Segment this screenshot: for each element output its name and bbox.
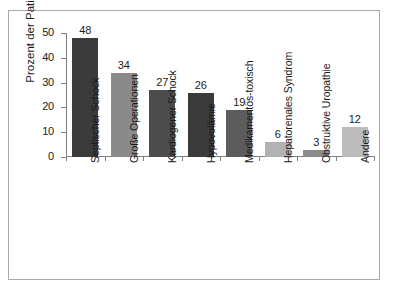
bar-value-label: 3 bbox=[313, 136, 319, 148]
x-category-label: Kardiogener Schock bbox=[166, 70, 178, 163]
x-tick-mark bbox=[297, 157, 298, 161]
x-category-label: Medikamentös-toxisch bbox=[243, 61, 255, 163]
x-tick-mark bbox=[105, 157, 106, 161]
x-category-label: Hepatorenales Syndrom bbox=[282, 52, 294, 163]
x-tick-mark bbox=[336, 157, 337, 161]
x-tick-mark bbox=[143, 157, 144, 161]
x-tick-mark bbox=[66, 157, 67, 161]
x-category-label: Obstruktive Uropathie bbox=[320, 64, 332, 163]
y-tick-label: 40 bbox=[14, 51, 54, 63]
x-category-label: Hypovolämie bbox=[205, 103, 217, 163]
y-tick-label: 50 bbox=[14, 26, 54, 38]
bar-value-label: 34 bbox=[118, 59, 130, 71]
bar-value-label: 48 bbox=[79, 24, 91, 36]
x-tick-mark bbox=[182, 157, 183, 161]
bar-value-label: 12 bbox=[349, 113, 361, 125]
y-tick-label: 20 bbox=[14, 100, 54, 112]
figure-container: Prozent der Patienten 01020304050 483427… bbox=[0, 0, 393, 296]
x-tick-mark bbox=[259, 157, 260, 161]
x-tick-mark bbox=[374, 157, 375, 161]
x-category-label: Große Operationen bbox=[128, 74, 140, 163]
bar-value-label: 6 bbox=[275, 128, 281, 140]
y-tick-label: 0 bbox=[14, 150, 54, 162]
y-tick-label: 30 bbox=[14, 76, 54, 88]
y-tick-label: 10 bbox=[14, 125, 54, 137]
figure-frame: Prozent der Patienten 01020304050 483427… bbox=[8, 10, 380, 280]
x-tick-mark bbox=[220, 157, 221, 161]
x-category-label: Andere bbox=[359, 130, 371, 163]
x-category-label: Septischer Schock bbox=[89, 78, 101, 163]
bar-value-label: 26 bbox=[195, 79, 207, 91]
